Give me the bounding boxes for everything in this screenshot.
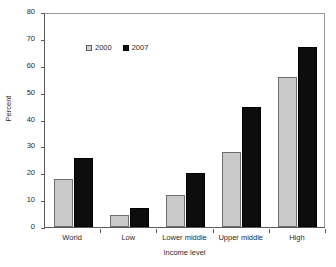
legend-entry-2007: 2007	[123, 43, 149, 52]
y-axis-tick-label: 40	[27, 115, 35, 124]
x-axis-label-upper-middle: Upper middle	[213, 233, 269, 242]
bar-upper-middle-2000	[222, 152, 241, 227]
bar-high-2007	[298, 47, 317, 227]
chart-legend: 2000 2007	[86, 43, 148, 52]
bar-low-2000	[110, 215, 129, 227]
y-axis-tick-label: 10	[27, 195, 35, 204]
bar-world-2007	[74, 158, 93, 227]
y-axis-tick-label: 60	[27, 61, 35, 70]
bar-chart: 01020304050607080 Percent WorldLowLower …	[0, 0, 336, 267]
y-axis-tick-mark	[41, 147, 45, 148]
x-axis-label-high: High	[269, 233, 325, 242]
y-axis-title: Percent	[4, 79, 13, 139]
y-axis-tick-mark	[41, 174, 45, 175]
bar-low-2007	[130, 208, 149, 227]
y-axis-tick-label: 30	[27, 141, 35, 150]
legend-label-2000: 2000	[95, 43, 112, 52]
legend-entry-2000: 2000	[86, 43, 112, 52]
x-axis-label-world: World	[44, 233, 100, 242]
bar-high-2000	[278, 77, 297, 228]
bar-lower-middle-2000	[166, 195, 185, 227]
bar-upper-middle-2007	[242, 107, 261, 227]
y-axis-tick-mark	[41, 67, 45, 68]
y-axis-tick-label: 0	[31, 222, 35, 231]
y-axis-tick-mark	[41, 201, 45, 202]
legend-swatch-2000-icon	[86, 45, 92, 51]
y-axis-tick-label: 50	[27, 88, 35, 97]
bar-world-2000	[54, 179, 73, 227]
y-axis-tick-mark	[41, 94, 45, 95]
legend-swatch-2007-icon	[123, 45, 129, 51]
x-axis-label-low: Low	[100, 233, 156, 242]
y-axis-tick-mark	[41, 121, 45, 122]
x-axis-label-lower-middle: Lower middle	[156, 233, 212, 242]
y-axis-tick-label: 70	[27, 34, 35, 43]
y-axis-tick-mark	[41, 40, 45, 41]
y-axis-tick-label: 80	[27, 7, 35, 16]
bar-lower-middle-2007	[186, 173, 205, 227]
y-axis-tick-mark	[41, 13, 45, 14]
x-axis-title: Income level	[44, 248, 325, 257]
y-axis-tick-label: 20	[27, 168, 35, 177]
legend-label-2007: 2007	[132, 43, 149, 52]
x-axis-tick-mark	[325, 229, 326, 233]
x-axis: WorldLowLower middleUpper middleHigh	[44, 229, 325, 245]
